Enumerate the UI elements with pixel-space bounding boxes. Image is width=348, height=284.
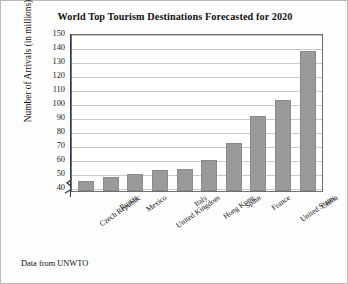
bar [275, 100, 291, 191]
y-axis-tick-label: 130 [52, 58, 65, 66]
bar [103, 177, 119, 191]
x-axis-tick-label: Mexico [144, 193, 168, 214]
y-axis-tick-labels: 405060708090100110120130140150 [37, 34, 67, 192]
chart-title: World Top Tourism Destinations Forecaste… [1, 11, 348, 22]
y-axis-tick-label: 120 [52, 72, 65, 80]
plot-area [71, 34, 323, 192]
y-axis-tick-label: 90 [57, 114, 65, 122]
bar [152, 170, 168, 191]
bar [78, 181, 94, 191]
bar [177, 169, 193, 191]
chart-figure: World Top Tourism Destinations Forecaste… [0, 0, 348, 284]
y-axis-title: Number of Arrivals (in millions) [23, 0, 33, 141]
bar [201, 160, 217, 191]
bar [127, 174, 143, 191]
x-axis-tick-label: China [319, 193, 339, 211]
x-axis-tick-label: France [269, 193, 291, 212]
y-axis-tick-label: 110 [53, 86, 65, 94]
bar [226, 143, 242, 191]
x-axis-tick-labels: Czech RepublicRussiaMexicoUnited Kingdom… [71, 193, 323, 255]
y-axis-tick-label: 140 [52, 44, 65, 52]
bar [300, 51, 316, 191]
y-axis-tick-label: 150 [52, 30, 65, 38]
y-axis-tick-label: 80 [57, 128, 65, 136]
bar-series [72, 35, 322, 191]
chart-footnote: Data from UNWTO [21, 259, 88, 268]
y-axis-tick-label: 70 [57, 142, 65, 150]
bar [250, 116, 266, 192]
y-axis-tick-label: 60 [57, 156, 65, 164]
y-axis-tick-label: 100 [52, 100, 65, 108]
